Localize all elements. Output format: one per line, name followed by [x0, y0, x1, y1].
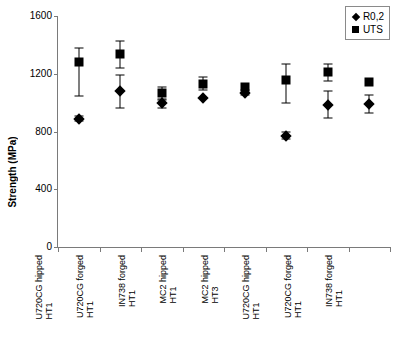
legend-item: UTS — [350, 23, 384, 36]
diamond-marker-icon — [73, 113, 84, 124]
diamond-marker-icon — [364, 98, 375, 109]
data-point-r02 — [199, 94, 207, 102]
square-marker-icon — [282, 75, 291, 84]
data-point-r02 — [116, 87, 124, 95]
data-point-uts — [323, 67, 332, 76]
error-bar-cap — [157, 86, 166, 87]
y-axis-title-label: Strength (MPa) — [7, 136, 18, 207]
x-label-line2: HT3 — [210, 255, 220, 304]
x-label-line2: HT1 — [168, 255, 178, 304]
legend-label: UTS — [363, 25, 383, 35]
error-bar-cap — [116, 75, 125, 76]
legend-label: R0,2 — [363, 12, 384, 22]
data-point-uts — [282, 75, 291, 84]
y-axis-title: Strength (MPa) — [4, 136, 20, 211]
x-label-line1: IN738 forged — [324, 255, 334, 307]
data-point-r02 — [282, 132, 290, 140]
x-label-line1: U720CG hipped — [241, 255, 251, 320]
error-bar-cap — [116, 107, 125, 108]
y-axis-tick-mark — [54, 16, 58, 17]
x-label-line2: HT1 — [334, 255, 344, 307]
data-point-uts — [116, 49, 125, 58]
error-bar-cap — [365, 113, 374, 114]
data-point-r02 — [324, 101, 332, 109]
x-axis-tick-mark — [266, 247, 267, 252]
legend-marker — [350, 26, 362, 33]
error-bar-cap — [116, 67, 125, 68]
square-marker-icon — [365, 77, 374, 86]
data-point-uts — [199, 79, 208, 88]
x-axis-tick-mark — [349, 247, 350, 252]
x-label-line2: HT1 — [44, 255, 54, 320]
x-axis-tick-mark — [100, 247, 101, 252]
x-axis-tick-mark — [141, 247, 142, 252]
x-label-line1: U720CG forged — [75, 255, 85, 318]
data-point-uts — [74, 58, 83, 67]
error-bar-cap — [116, 40, 125, 41]
square-marker-icon — [199, 79, 208, 88]
data-point-uts — [365, 77, 374, 86]
diamond-marker-icon — [322, 99, 333, 110]
error-bar-cap — [282, 64, 291, 65]
y-axis-tick-mark — [54, 132, 58, 133]
error-bar-cap — [157, 100, 166, 101]
x-axis-tick-mark — [183, 247, 184, 252]
x-label-line1: IN738 forged — [117, 255, 127, 307]
error-bar-cap — [323, 80, 332, 81]
data-point-uts — [240, 83, 249, 92]
data-point-uts — [157, 89, 166, 98]
x-axis-tick-mark — [224, 247, 225, 252]
error-bar-cap — [323, 91, 332, 92]
data-point-r02 — [365, 100, 373, 108]
chart-legend: R0,2UTS — [345, 6, 390, 40]
error-bar — [78, 48, 79, 96]
x-label-line2: HT1 — [85, 255, 95, 318]
error-bar-cap — [199, 90, 208, 91]
x-axis-tick-mark — [58, 247, 59, 252]
square-marker-icon — [157, 89, 166, 98]
x-axis-tick-mark — [390, 247, 391, 252]
error-bar-cap — [323, 117, 332, 118]
error-bar-cap — [199, 77, 208, 78]
diamond-marker-icon — [115, 85, 126, 96]
x-label-line1: MC2 hipped — [200, 255, 210, 304]
error-bar-cap — [282, 102, 291, 103]
y-axis-tick-mark — [54, 189, 58, 190]
square-marker-icon — [352, 26, 359, 33]
diamond-marker-icon — [198, 93, 209, 104]
error-bar-cap — [365, 95, 374, 96]
x-axis-tick-mark — [307, 247, 308, 252]
data-point-r02 — [75, 115, 83, 123]
error-bar-cap — [74, 96, 83, 97]
legend-item: R0,2 — [350, 10, 384, 23]
diamond-marker-icon — [352, 12, 360, 20]
plot-area: 040080012001600U720CG hippedHT1U720CG fo… — [57, 16, 390, 248]
x-label-line2: HT1 — [293, 255, 303, 318]
square-marker-icon — [323, 67, 332, 76]
x-label-line2: HT1 — [251, 255, 261, 320]
diamond-marker-icon — [281, 130, 292, 141]
square-marker-icon — [240, 83, 249, 92]
x-label-line1: U720CG hipped — [34, 255, 44, 320]
x-axis-category-label: IN738 forgedHT1 — [324, 255, 398, 311]
strength-chart: Strength (MPa) 040080012001600U720CG hip… — [0, 0, 398, 347]
square-marker-icon — [74, 58, 83, 67]
x-label-line1: MC2 hipped — [158, 255, 168, 304]
legend-marker — [350, 14, 362, 20]
error-bar-cap — [323, 63, 332, 64]
x-label-line2: HT1 — [127, 255, 137, 307]
y-axis-tick-mark — [54, 74, 58, 75]
square-marker-icon — [116, 49, 125, 58]
error-bar-cap — [74, 48, 83, 49]
x-label-line1: U720CG forged — [283, 255, 293, 318]
